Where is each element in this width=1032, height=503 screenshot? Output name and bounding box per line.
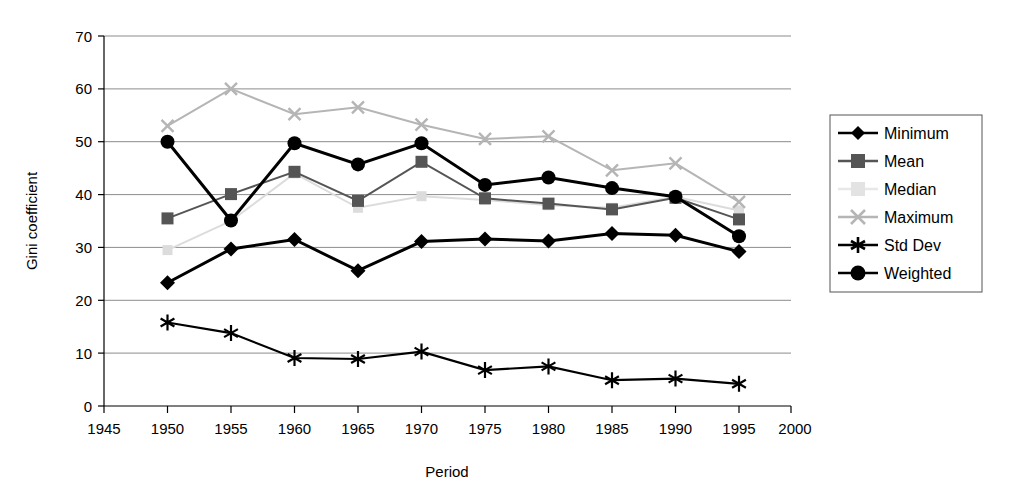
marker-weighted-1975 — [478, 178, 492, 192]
marker-median-1970 — [417, 191, 427, 201]
marker-weighted-1950 — [161, 135, 175, 149]
marker-mean-1995 — [733, 213, 745, 225]
marker-mean-1965 — [352, 195, 364, 207]
marker-weighted-1970 — [415, 136, 429, 150]
y-tick-label-30: 30 — [75, 239, 92, 256]
plot-area-background — [104, 36, 791, 406]
marker-weighted-1990 — [669, 190, 683, 204]
marker-mean-1985 — [606, 203, 618, 215]
x-tick-label-1945: 1945 — [87, 420, 120, 437]
x-tick-label-1955: 1955 — [214, 420, 247, 437]
chart-legend: Minimum Mean Median Maximum — [830, 115, 982, 292]
y-axis-title: Gini coefficient — [23, 171, 40, 270]
marker-weighted-1960 — [288, 136, 302, 150]
y-tick-label-0: 0 — [84, 398, 92, 415]
x-tick-label-1960: 1960 — [278, 420, 311, 437]
y-tick-label-60: 60 — [75, 80, 92, 97]
x-tick-label-1950: 1950 — [151, 420, 184, 437]
legend-label-weighted: Weighted — [884, 265, 951, 282]
circle-icon — [851, 266, 866, 281]
x-tick-label-1965: 1965 — [341, 420, 374, 437]
y-tick-labels: 70 60 50 40 30 20 10 0 — [75, 28, 92, 415]
marker-mean-1955 — [225, 188, 237, 200]
marker-weighted-1965 — [351, 157, 365, 171]
x-tick-label-1970: 1970 — [405, 420, 438, 437]
legend-label-mean: Mean — [884, 153, 924, 170]
marker-weighted-1985 — [605, 181, 619, 195]
legend-label-maximum: Maximum — [884, 209, 953, 226]
chart-figure: 70 60 50 40 30 20 10 0 1945 19 — [0, 0, 1032, 503]
legend-item-median[interactable]: Median — [838, 181, 936, 198]
square-faint-icon — [851, 182, 865, 196]
marker-weighted-1955 — [224, 214, 238, 228]
marker-mean-1980 — [543, 198, 555, 210]
marker-mean-1970 — [416, 156, 428, 168]
marker-weighted-1995 — [732, 229, 746, 243]
gini-coefficient-line-chart: 70 60 50 40 30 20 10 0 1945 19 — [0, 0, 1032, 503]
x-axis-title: Period — [425, 463, 468, 480]
y-tick-label-70: 70 — [75, 28, 92, 45]
x-tick-label-1990: 1990 — [659, 420, 692, 437]
x-tick-labels: 1945 1950 1955 1960 1965 1970 1975 1980 … — [87, 420, 811, 437]
square-icon — [851, 154, 865, 168]
x-tick-label-2000: 2000 — [778, 420, 811, 437]
x-tick-label-1980: 1980 — [532, 420, 565, 437]
x-tick-label-1995: 1995 — [722, 420, 755, 437]
marker-mean-1950 — [162, 212, 174, 224]
legend-label-std-dev: Std Dev — [884, 237, 941, 254]
y-tick-marks — [98, 36, 104, 406]
legend-label-minimum: Minimum — [884, 125, 949, 142]
marker-mean-1975 — [479, 192, 491, 204]
x-tick-marks — [104, 406, 791, 413]
marker-mean-1960 — [289, 166, 301, 178]
legend-item-weighted[interactable]: Weighted — [838, 265, 951, 282]
y-tick-label-40: 40 — [75, 186, 92, 203]
x-tick-label-1975: 1975 — [468, 420, 501, 437]
y-tick-label-50: 50 — [75, 133, 92, 150]
x-tick-label-1985: 1985 — [595, 420, 628, 437]
marker-weighted-1980 — [542, 171, 556, 185]
marker-median-1950 — [163, 245, 173, 255]
y-tick-label-10: 10 — [75, 345, 92, 362]
legend-label-median: Median — [884, 181, 936, 198]
y-tick-label-20: 20 — [75, 292, 92, 309]
